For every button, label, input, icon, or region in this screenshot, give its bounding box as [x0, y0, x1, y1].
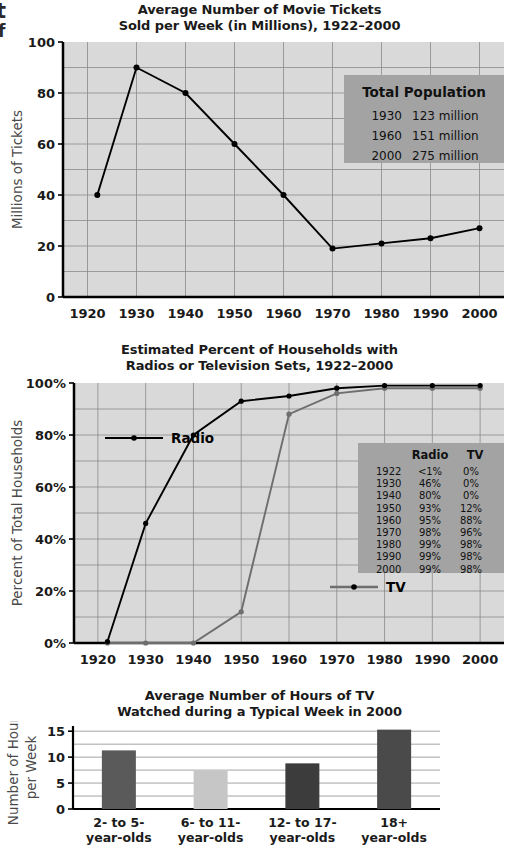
data-point [239, 398, 244, 403]
table-cell-radio: 99% [419, 539, 441, 550]
y-tick-label: 100% [26, 375, 66, 390]
y-tick-label: 80 [37, 85, 55, 100]
population-row-year: 1960 [371, 129, 402, 143]
y-axis-title-line-2: per Week [23, 735, 39, 799]
x-category-label-line-2: year-olds [178, 830, 244, 845]
population-row-year: 1930 [371, 109, 402, 123]
table-cell-radio: 80% [419, 490, 441, 501]
data-point [382, 383, 387, 388]
table-cell-tv: 0% [463, 466, 479, 477]
x-tick-label: 1920 [80, 652, 116, 667]
figure-3-title-line-2: Watched during a Typical Week in 2000 [0, 704, 519, 720]
figure-radio-tv: Estimated Percent of Households with Rad… [0, 340, 519, 680]
table-cell-tv: 88% [460, 514, 482, 525]
y-tick-label: 80% [35, 427, 66, 442]
x-category-label-line-2: year-olds [86, 830, 152, 845]
data-point [477, 225, 483, 231]
table-cell-tv: 98% [460, 539, 482, 550]
data-point [239, 609, 244, 614]
table-cell-radio: 46% [419, 478, 441, 489]
y-axis-title: Percent of Total Households [9, 419, 25, 606]
data-point [143, 520, 148, 525]
x-tick-label: 1950 [216, 306, 252, 321]
data-point [334, 390, 339, 395]
table-cell-tv: 0% [463, 490, 479, 501]
table-cell-radio: 95% [419, 514, 441, 525]
table-cell-tv: 98% [460, 551, 482, 562]
figure-2-title-line-2: Radios or Television Sets, 1922–2000 [0, 358, 519, 374]
population-row-value: 151 million [412, 129, 479, 143]
x-tick-label: 1950 [223, 652, 259, 667]
legend-marker-radio [131, 435, 137, 441]
population-row-year: 2000 [371, 149, 402, 163]
population-row-value: 123 million [412, 109, 479, 123]
x-tick-label: 1980 [366, 652, 402, 667]
total-population-title: Total Population [362, 84, 486, 100]
table-cell-year: 1960 [376, 514, 401, 525]
table-cell-year: 1940 [376, 490, 401, 501]
y-tick-label: 0% [44, 635, 66, 650]
figure-movie-tickets: Average Number of Movie Tickets Sold per… [0, 0, 519, 335]
bar [194, 770, 228, 808]
legend-label-tv: TV [386, 579, 406, 595]
y-tick-label: 60 [37, 136, 55, 151]
figure-1-chart: 0204060801001920193019401950196019701980… [0, 35, 519, 330]
data-point [143, 640, 148, 645]
x-tick-label: 1940 [167, 306, 203, 321]
data-point [183, 90, 189, 96]
table-cell-year: 1980 [376, 539, 401, 550]
data-point [134, 64, 140, 70]
x-tick-label: 1970 [319, 652, 355, 667]
x-tick-label: 1920 [69, 306, 105, 321]
x-tick-label: 1960 [265, 306, 301, 321]
data-point [281, 192, 287, 198]
x-tick-label: 2000 [461, 306, 497, 321]
figure-tv-hours: Average Number of Hours of TV Watched du… [0, 686, 519, 848]
table-column-header-tv: TV [467, 448, 484, 462]
y-tick-label: 10 [47, 749, 65, 764]
table-cell-tv: 98% [460, 563, 482, 574]
table-cell-year: 1922 [376, 466, 401, 477]
y-axis-title-line-1: Number of Hours [5, 721, 21, 825]
table-cell-year: 1970 [376, 527, 401, 538]
table-cell-tv: 0% [463, 478, 479, 489]
table-cell-radio: 99% [419, 563, 441, 574]
x-tick-label: 1980 [363, 306, 399, 321]
bar [102, 750, 136, 809]
textbook-page: t f Average Number of Movie Tickets Sold… [0, 0, 519, 848]
x-category-label-line-2: year-olds [270, 830, 336, 845]
table-cell-tv: 96% [460, 527, 482, 538]
table-cell-year: 1930 [376, 478, 401, 489]
table-cell-radio: 98% [419, 527, 441, 538]
x-tick-label: 1990 [414, 652, 450, 667]
figure-1-title: Average Number of Movie Tickets Sold per… [0, 0, 519, 35]
data-point [232, 141, 238, 147]
table-cell-year: 2000 [376, 563, 401, 574]
table-cell-year: 1950 [376, 502, 401, 513]
table-cell-tv: 12% [460, 502, 482, 513]
y-tick-label: 20% [35, 583, 66, 598]
figure-3-title: Average Number of Hours of TV Watched du… [0, 686, 519, 721]
y-tick-label: 15 [47, 723, 65, 738]
x-category-label-line-1: 18+ [380, 815, 408, 830]
population-row-value: 275 million [412, 149, 479, 163]
figure-3-title-line-1: Average Number of Hours of TV [0, 688, 519, 704]
data-point [191, 640, 196, 645]
figure-2-title: Estimated Percent of Households with Rad… [0, 340, 519, 375]
table-cell-radio: 99% [419, 551, 441, 562]
figure-1-title-line-2: Sold per Week (in Millions), 1922–2000 [0, 18, 519, 34]
data-point [286, 411, 291, 416]
data-point [379, 240, 385, 246]
x-tick-label: 1970 [314, 306, 350, 321]
x-tick-label: 1960 [271, 652, 307, 667]
x-tick-label: 1990 [412, 306, 448, 321]
bar [377, 729, 411, 808]
figure-3-chart: 051015Number of Hoursper Week2- to 5-yea… [0, 721, 519, 848]
table-cell-radio: <1% [418, 466, 442, 477]
data-point [428, 235, 434, 241]
data-point [105, 639, 110, 644]
y-tick-label: 20 [37, 238, 55, 253]
data-point [330, 245, 336, 251]
x-category-label-line-1: 2- to 5- [93, 815, 144, 830]
data-point [430, 383, 435, 388]
